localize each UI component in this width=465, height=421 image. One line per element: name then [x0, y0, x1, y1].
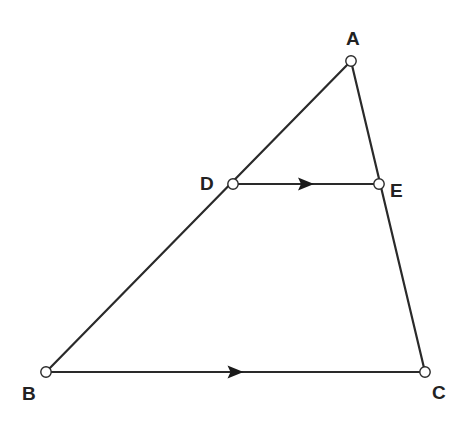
- point-a: [346, 56, 356, 66]
- point-d: [228, 179, 238, 189]
- point-b: [41, 367, 51, 377]
- label-c: C: [432, 382, 446, 403]
- triangle-diagram: ABCDE: [0, 0, 465, 421]
- label-b: B: [22, 383, 36, 404]
- parallel-markers: [228, 178, 315, 379]
- segment-ab: [46, 61, 351, 372]
- label-a: A: [346, 28, 360, 49]
- label-d: D: [200, 173, 214, 194]
- vertices: [41, 56, 430, 377]
- point-c: [420, 367, 430, 377]
- label-e: E: [390, 180, 403, 201]
- point-e: [374, 179, 384, 189]
- segment-ac: [351, 61, 425, 372]
- segments: [46, 61, 425, 372]
- vertex-labels: ABCDE: [22, 28, 446, 404]
